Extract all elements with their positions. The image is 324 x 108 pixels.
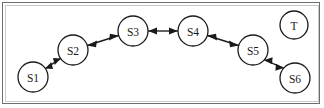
edge-s3-s4-arrowhead-end xyxy=(169,28,178,35)
diagram-figure: S1 S2 S3 S4 S5 S6 xyxy=(0,0,324,108)
node-s5[interactable]: S5 xyxy=(238,35,268,65)
edge-s4-s5-arrowhead-end xyxy=(229,41,239,48)
edge-s2-s3[interactable] xyxy=(87,34,119,47)
node-t-label: T xyxy=(290,20,297,32)
edge-s1-s2-arrowhead-start xyxy=(45,62,53,69)
state-graph: S1 S2 S3 S4 S5 S6 xyxy=(0,0,324,108)
edge-s4-s5-arrowhead-start xyxy=(207,34,217,41)
node-s2-label: S2 xyxy=(67,45,79,57)
node-s6-label: S6 xyxy=(289,73,301,85)
node-s4-label: S4 xyxy=(187,26,199,38)
edge-s3-s4[interactable] xyxy=(148,28,178,35)
node-s3[interactable]: S3 xyxy=(118,16,148,46)
node-s1-label: S1 xyxy=(27,72,39,84)
edge-s2-s3-arrowhead-end xyxy=(109,34,119,41)
node-s1[interactable]: S1 xyxy=(18,62,48,92)
edge-s2-s3-arrowhead-start xyxy=(87,41,97,48)
edge-s5-s6[interactable] xyxy=(264,57,283,71)
node-s4[interactable]: S4 xyxy=(178,16,208,46)
edge-s1-s2[interactable] xyxy=(45,58,60,69)
nodes-layer: S1 S2 S3 S4 S5 S6 xyxy=(18,11,310,93)
edge-s3-s4-arrowhead-start xyxy=(148,28,157,35)
node-s6[interactable]: S6 xyxy=(280,63,310,93)
edge-s4-s5[interactable] xyxy=(207,34,239,47)
edge-s1-s2-arrowhead-end xyxy=(53,58,61,65)
node-t[interactable]: T xyxy=(280,11,308,39)
node-s5-label: S5 xyxy=(247,45,259,57)
node-s2[interactable]: S2 xyxy=(58,35,88,65)
node-s3-label: S3 xyxy=(127,26,139,38)
